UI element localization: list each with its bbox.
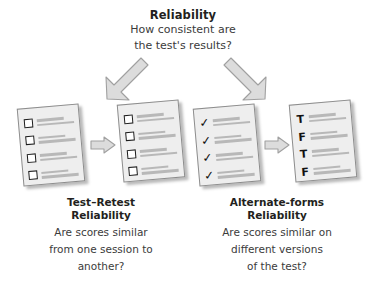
caption-body-line3: another? — [8, 259, 194, 273]
test-retest-cards — [8, 100, 194, 196]
caption-title-line2: Reliability — [8, 209, 194, 222]
alternate-forms-card-2: T F T — [289, 99, 358, 182]
caption-test-retest: Test–Retest Reliability Are scores simil… — [8, 196, 194, 273]
caption-body-line2: from one session to — [8, 242, 194, 256]
checklist-row: F — [296, 126, 348, 143]
text-line — [309, 116, 346, 122]
checklist-row: ✓ — [200, 130, 252, 147]
checklist-row — [27, 165, 79, 182]
row-lines — [141, 164, 178, 174]
row-lines — [214, 133, 251, 143]
checklist-row: T — [294, 109, 346, 126]
row-lines — [41, 168, 78, 178]
checklist-row — [126, 144, 178, 161]
checkmark-icon: ✓ — [200, 135, 212, 147]
checklist-row — [22, 113, 74, 130]
diagram-subtitle-line1: How consistent are — [0, 23, 366, 38]
row-lines — [213, 116, 250, 126]
text-line — [216, 155, 253, 161]
checkbox-empty-icon — [127, 166, 139, 178]
row-lines — [309, 112, 346, 122]
checkmark-icon: ✓ — [203, 170, 215, 182]
text-line — [218, 173, 255, 179]
group-test-retest — [8, 100, 194, 196]
row-lines — [312, 147, 349, 157]
row-lines — [313, 164, 350, 174]
checklist-row: T — [298, 144, 350, 161]
caption-body-line2: different versions — [188, 242, 366, 256]
checklist-row — [124, 126, 176, 143]
checklist-row — [24, 130, 76, 147]
row-lines — [138, 129, 175, 139]
text-line — [139, 134, 176, 140]
text-line — [42, 173, 79, 179]
row-lines — [137, 112, 174, 122]
answer-letter-f: F — [299, 166, 311, 178]
checklist-row — [122, 109, 174, 126]
caption-body-line1: Are scores similar — [8, 225, 194, 239]
row-lines — [140, 147, 177, 157]
checkbox-empty-icon — [27, 170, 39, 182]
alternate-forms-cards: ✓ ✓ ✓ — [188, 100, 366, 196]
row-lines — [217, 168, 254, 178]
arrow-right-icon — [264, 136, 290, 158]
row-lines — [37, 116, 74, 126]
text-line — [142, 169, 179, 175]
checkbox-empty-icon — [123, 113, 135, 125]
checkbox-empty-icon — [26, 152, 38, 164]
text-line — [40, 155, 77, 161]
checkbox-empty-icon — [24, 135, 36, 147]
text-line — [213, 120, 250, 126]
text-line — [39, 138, 76, 144]
arrow-down-left-icon — [104, 56, 150, 106]
checklist-row — [127, 161, 179, 178]
answer-letter-t: T — [295, 113, 307, 125]
checklist-row: ✓ — [198, 113, 250, 130]
answer-letter-t: T — [298, 148, 310, 160]
test-retest-card-2 — [117, 99, 186, 182]
group-alternate-forms: ✓ ✓ ✓ — [188, 100, 366, 196]
caption-body-line1: Are scores similar on — [188, 225, 366, 239]
arrow-right-icon — [90, 136, 116, 158]
checklist-row: ✓ — [202, 148, 254, 165]
answer-letter-f: F — [296, 131, 308, 143]
text-line — [312, 151, 349, 157]
caption-title-line1: Test–Retest — [8, 196, 194, 209]
text-line — [140, 151, 177, 157]
text-line — [215, 138, 252, 144]
checkmark-icon: ✓ — [202, 152, 214, 164]
reliability-diagram: Reliability How consistent are the test'… — [0, 0, 366, 282]
text-line — [314, 169, 351, 175]
checkbox-empty-icon — [126, 148, 138, 160]
row-lines — [40, 151, 77, 161]
caption-alternate-forms: Alternate-forms Reliability Are scores s… — [188, 196, 366, 273]
row-lines — [38, 133, 75, 143]
caption-title-line1: Alternate-forms — [188, 196, 366, 209]
text-line — [37, 120, 74, 126]
checkbox-empty-icon — [124, 131, 136, 143]
arrow-down-right-icon — [222, 56, 268, 106]
caption-body-line3: of the test? — [188, 259, 366, 273]
diagram-header: Reliability How consistent are the test'… — [0, 8, 366, 53]
row-lines — [310, 129, 347, 139]
checklist-row: ✓ — [203, 165, 255, 182]
diagram-title: Reliability — [0, 8, 366, 22]
checkmark-icon: ✓ — [199, 117, 211, 129]
alternate-forms-card-1: ✓ ✓ ✓ — [193, 103, 262, 186]
caption-title-line2: Reliability — [188, 209, 366, 222]
text-line — [311, 134, 348, 140]
checklist-row: F — [299, 161, 351, 178]
diagram-subtitle-line2: the test's results? — [0, 39, 366, 54]
checklist-row — [26, 148, 78, 165]
test-retest-card-1 — [17, 103, 86, 186]
text-line — [137, 116, 174, 122]
row-lines — [216, 151, 253, 161]
checkbox-empty-icon — [23, 117, 35, 129]
